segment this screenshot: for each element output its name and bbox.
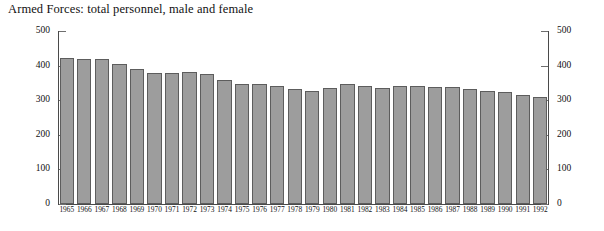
plot-area [58, 31, 549, 204]
y-tick-label-left: 0 [45, 199, 50, 209]
x-tick-label: 1988 [463, 206, 478, 214]
bar [77, 59, 91, 204]
bar [270, 86, 284, 204]
x-tick-label: 1970 [147, 206, 162, 214]
x-tick-label: 1973 [200, 206, 215, 214]
bar [375, 88, 389, 204]
x-tick-label: 1966 [77, 206, 92, 214]
x-tick-label: 1985 [410, 206, 425, 214]
bar [112, 64, 126, 204]
bar [200, 74, 214, 204]
x-tick-label: 1979 [305, 206, 320, 214]
y-tick-label-left: 200 [36, 130, 50, 140]
x-tick-label: 1984 [393, 206, 408, 214]
bar [165, 73, 179, 204]
bar [95, 59, 109, 204]
x-tick-label: 1977 [270, 206, 285, 214]
bar [358, 86, 372, 204]
x-tick-label: 1967 [94, 206, 109, 214]
x-tick-label: 1965 [59, 206, 74, 214]
bar-series [58, 31, 549, 204]
y-tick-label-left: 300 [36, 95, 50, 105]
bar [235, 84, 249, 204]
y-tick-label-right: 500 [557, 26, 571, 36]
bar [445, 87, 459, 204]
y-tick-label-right: 100 [557, 165, 571, 175]
x-axis-labels: 1965196619671968196919701971197219731974… [58, 206, 549, 222]
y-tick-label-right: 200 [557, 130, 571, 140]
bar [340, 84, 354, 204]
chart-title: Armed Forces: total personnel, male and … [8, 2, 253, 17]
y-tick-label-left: 400 [36, 61, 50, 71]
x-tick-label: 1981 [340, 206, 355, 214]
x-tick-label: 1976 [252, 206, 267, 214]
y-tick-label-left: 500 [36, 26, 50, 36]
x-tick-label: 1975 [235, 206, 250, 214]
bar [60, 58, 74, 204]
x-tick-label: 1978 [287, 206, 302, 214]
x-tick-label: 1990 [498, 206, 513, 214]
bar [533, 97, 547, 204]
x-tick-label: 1974 [217, 206, 232, 214]
y-tick-label-left: 100 [36, 165, 50, 175]
y-tick-label-right: 400 [557, 61, 571, 71]
bar [516, 95, 530, 204]
bar [305, 91, 319, 204]
bar [323, 88, 337, 204]
x-tick-label: 1983 [375, 206, 390, 214]
x-tick-label: 1986 [428, 206, 443, 214]
x-tick-label: 1987 [445, 206, 460, 214]
x-tick-label: 1972 [182, 206, 197, 214]
x-tick-label: 1969 [130, 206, 145, 214]
x-tick-label: 1991 [515, 206, 530, 214]
bar [393, 86, 407, 204]
x-tick-label: 1971 [165, 206, 180, 214]
bar [147, 73, 161, 204]
bar [182, 72, 196, 204]
x-tick-label: 1980 [322, 206, 337, 214]
x-tick-label: 1982 [357, 206, 372, 214]
bar [130, 69, 144, 204]
chart-figure: Armed Forces: total personnel, male and … [0, 0, 604, 231]
x-tick-label: 1992 [533, 206, 548, 214]
y-tick-label-right: 0 [557, 199, 562, 209]
bar [498, 92, 512, 204]
bar [410, 86, 424, 204]
bar [463, 89, 477, 204]
bar [428, 87, 442, 204]
bar [480, 91, 494, 204]
x-tick-label: 1989 [480, 206, 495, 214]
bar [288, 89, 302, 204]
bar [217, 80, 231, 204]
bar [252, 84, 266, 204]
y-tick-label-right: 300 [557, 95, 571, 105]
x-tick-label: 1968 [112, 206, 127, 214]
